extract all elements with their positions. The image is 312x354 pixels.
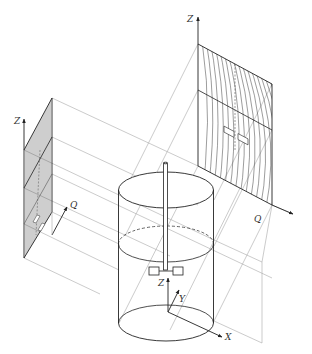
left-z-label: Z: [14, 117, 20, 126]
y-axis-arrow: [168, 290, 179, 312]
right-impeller-outline: [224, 126, 234, 137]
tank-bottom-back: [119, 305, 214, 323]
right-z-label: Z: [187, 15, 193, 24]
left-q-label: Q: [70, 201, 77, 210]
diagram-canvas: [0, 0, 312, 354]
right-projection-plane: [198, 40, 297, 244]
right-q-label: Q: [254, 215, 261, 224]
right-q-axis-arrow: [272, 205, 293, 214]
tank-y-label: Y: [179, 295, 185, 304]
left-projection-plane: [24, 90, 52, 270]
tank-x-label: X: [225, 333, 231, 342]
left-q-axis-arrow: [52, 207, 67, 235]
tank-bottom-front: [119, 323, 214, 341]
tank-z-label: Z: [158, 279, 164, 288]
left-impeller-outline: [33, 215, 45, 231]
impeller-blade-right: [173, 267, 183, 275]
shaft: [164, 163, 168, 270]
impeller-blade-left: [149, 267, 159, 275]
